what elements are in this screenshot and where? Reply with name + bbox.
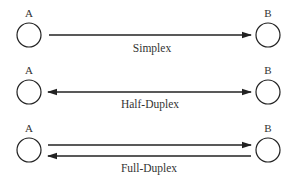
node-a-circle	[17, 138, 41, 162]
node-b-label: B	[264, 64, 271, 76]
node-a-label: A	[25, 7, 33, 19]
half-duplex-row: A B Half-Duplex	[17, 64, 280, 111]
node-b-label: B	[264, 122, 271, 134]
full-duplex-row: A B Full-Duplex	[17, 122, 280, 175]
node-a-label: A	[25, 64, 33, 76]
transmission-modes-diagram: A B Simplex A B Half-Duplex A B Full-Dup…	[0, 0, 295, 183]
node-a-circle	[17, 23, 41, 47]
node-b-label: B	[264, 7, 271, 19]
node-b-circle	[256, 80, 280, 104]
node-b-circle	[256, 23, 280, 47]
full-duplex-label: Full-Duplex	[121, 162, 177, 175]
node-a-label: A	[25, 122, 33, 134]
simplex-row: A B Simplex	[17, 7, 280, 55]
simplex-label: Simplex	[133, 42, 172, 55]
half-duplex-label: Half-Duplex	[121, 98, 179, 111]
node-a-circle	[17, 80, 41, 104]
node-b-circle	[256, 138, 280, 162]
